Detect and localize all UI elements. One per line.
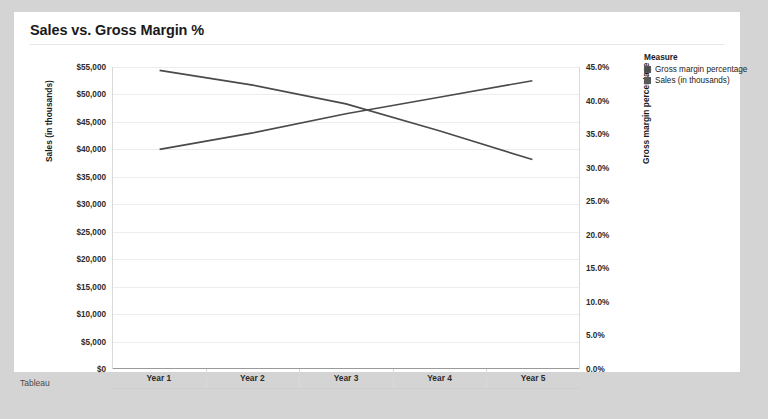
legend-item-label: Gross margin percentage <box>655 65 747 74</box>
left-axis-tick-label: $55,000 <box>76 63 106 72</box>
page-title: Sales vs. Gross Margin % <box>30 22 204 38</box>
x-axis-separator <box>299 369 300 389</box>
right-axis-tick-label: 45.0% <box>586 63 609 72</box>
left-axis-tick-label: $50,000 <box>76 90 106 99</box>
left-axis-title: Sales (in thousands) <box>44 80 54 162</box>
x-axis-separator <box>393 369 394 389</box>
x-axis-tick-label: Year 5 <box>521 373 546 383</box>
left-axis-tick-label: $5,000 <box>81 337 106 346</box>
x-axis-tick-label: Year 3 <box>334 373 359 383</box>
x-axis-bottom-rule <box>112 388 580 389</box>
legend-title: Measure <box>644 52 756 62</box>
x-axis: Year 1Year 2Year 3Year 4Year 5 <box>112 369 580 389</box>
x-axis-separator <box>486 369 487 389</box>
left-axis-tick-label: $35,000 <box>76 172 106 181</box>
left-axis: $0$5,000$10,000$15,000$20,000$25,000$30,… <box>14 67 106 369</box>
left-axis-tick-label: $15,000 <box>76 282 106 291</box>
left-axis-tick-label: $45,000 <box>76 117 106 126</box>
left-axis-tick-label: $20,000 <box>76 255 106 264</box>
chart-card: Sales vs. Gross Margin % $0$5,000$10,000… <box>14 12 740 372</box>
legend-item-sales[interactable]: Sales (in thousands) <box>644 76 756 85</box>
legend: Measure Gross margin percentage Sales (i… <box>644 52 756 87</box>
series-line-gross-margin <box>160 70 533 159</box>
screenshot-root: Sales vs. Gross Margin % $0$5,000$10,000… <box>0 0 768 419</box>
x-axis-separator <box>206 369 207 389</box>
right-axis-tick-label: 25.0% <box>586 197 609 206</box>
legend-swatch-icon <box>644 77 651 84</box>
legend-item-gross-margin[interactable]: Gross margin percentage <box>644 65 756 74</box>
series-line-sales <box>160 81 533 150</box>
line-series-layer <box>113 67 579 369</box>
x-axis-tick-label: Year 2 <box>240 373 265 383</box>
right-axis-tick-label: 20.0% <box>586 230 609 239</box>
right-axis-tick-label: 15.0% <box>586 264 609 273</box>
right-axis-tick-label: 30.0% <box>586 163 609 172</box>
legend-swatch-icon <box>644 66 651 73</box>
right-axis: 0.0%5.0%10.0%15.0%20.0%25.0%30.0%35.0%40… <box>586 67 646 369</box>
right-axis-tick-label: 5.0% <box>586 331 605 340</box>
plot-area <box>112 67 580 369</box>
left-axis-tick-label: $10,000 <box>76 310 106 319</box>
x-axis-tick-label: Year 1 <box>146 373 171 383</box>
left-axis-tick-label: $30,000 <box>76 200 106 209</box>
source-caption: Tableau <box>20 378 50 388</box>
title-divider <box>30 44 724 45</box>
right-axis-tick-label: 0.0% <box>586 365 605 374</box>
left-axis-tick-label: $40,000 <box>76 145 106 154</box>
left-axis-tick-label: $25,000 <box>76 227 106 236</box>
right-axis-tick-label: 10.0% <box>586 297 609 306</box>
right-axis-tick-label: 35.0% <box>586 130 609 139</box>
legend-item-label: Sales (in thousands) <box>655 76 730 85</box>
right-axis-tick-label: 40.0% <box>586 96 609 105</box>
x-axis-tick-label: Year 4 <box>427 373 452 383</box>
left-axis-tick-label: $0 <box>97 365 106 374</box>
